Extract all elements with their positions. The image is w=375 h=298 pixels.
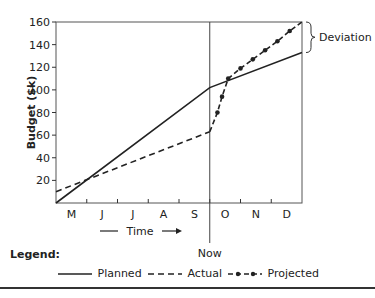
now-label: Now [198,247,222,260]
x-tick-label: O [221,208,230,221]
x-axis-title: Time [126,225,154,238]
y-tick-label: 120 [29,61,50,74]
projected-marker [263,48,268,53]
dashed-line-icon [148,269,184,279]
y-tick-label: 20 [36,174,50,187]
legend-title: Legend: [10,248,60,261]
projected-marker [238,66,243,71]
projected-marker [275,39,280,44]
legend-item-projected: Projected [228,267,319,280]
x-tick-label: D [282,208,290,221]
y-tick-label: 80 [36,107,50,120]
dash-dot-line-icon [228,269,264,279]
deviation-brace [306,22,315,53]
series-planned [56,53,302,203]
projected-marker [215,110,220,115]
legend-label-planned: Planned [98,267,142,280]
y-tick-label: 60 [36,129,50,142]
x-tick-label: S [191,208,198,221]
projected-marker [287,29,292,34]
x-tick-label: M [67,208,77,221]
solid-line-icon [58,269,94,279]
y-tick-label: 160 [29,16,50,29]
x-tick-label: N [252,208,260,221]
projected-marker [226,76,231,81]
projected-marker [220,94,225,99]
deviation-label: Deviation [319,31,372,44]
projected-marker [251,57,256,62]
legend-label-projected: Projected [268,267,319,280]
series-projected [210,22,302,132]
x-tick-label: A [160,208,168,221]
x-tick-label: J [100,208,104,221]
legend-item-planned: Planned [58,267,142,280]
bottom-rule [0,287,375,289]
arrow-right-icon [176,228,182,234]
series-actual [56,132,210,192]
legend-label-actual: Actual [188,267,222,280]
y-axis-title: Budget ($k) [25,76,38,150]
legend-item-actual: Actual [148,267,222,280]
y-tick-label: 40 [36,152,50,165]
x-tick-label: J [130,208,134,221]
y-tick-label: 140 [29,39,50,52]
